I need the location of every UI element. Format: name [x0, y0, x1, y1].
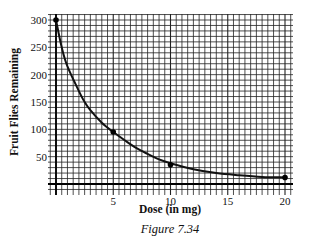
data-point — [282, 175, 288, 181]
y-tick-label: 200 — [31, 69, 48, 81]
x-axis-label: Dose (in mg) — [139, 203, 201, 216]
y-tick-label: 150 — [31, 96, 48, 108]
y-tick-label: 250 — [31, 41, 48, 53]
figure-caption: Figure 7.34 — [0, 222, 320, 237]
x-tick-label: 15 — [222, 195, 234, 207]
x-tick-label: 20 — [280, 195, 292, 207]
y-tick-label: 100 — [31, 123, 48, 135]
x-tick-label: 5 — [111, 195, 117, 207]
chart: 50100150200250300 5101520 Fruit Flies Re… — [0, 0, 320, 244]
data-point — [168, 162, 174, 168]
y-tick-label: 300 — [31, 14, 48, 26]
y-axis-label: Fruit Flies Remaining — [8, 48, 21, 156]
grid-lines — [48, 14, 293, 195]
data-point — [53, 17, 59, 23]
data-point — [110, 129, 116, 135]
y-tick-label: 50 — [36, 151, 48, 163]
y-tick-labels: 50100150200250300 — [31, 14, 48, 163]
